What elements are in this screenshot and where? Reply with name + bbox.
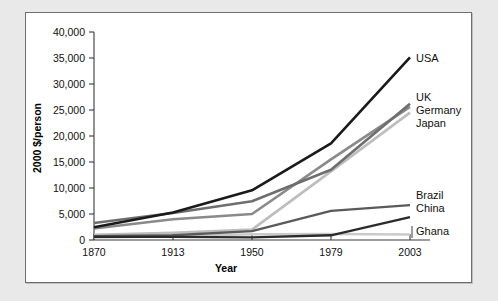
series-label-china: China xyxy=(416,202,446,214)
y-tick-label: 15,000 xyxy=(53,156,85,168)
x-axis-title: Year xyxy=(215,262,237,274)
screenshot-root: 05,00010,00015,00020,00025,00030,00035,0… xyxy=(0,0,498,301)
x-tick-label: 1870 xyxy=(82,246,106,258)
series-line-brazil xyxy=(94,205,410,236)
y-tick-label: 5,000 xyxy=(59,208,85,220)
y-axis: 05,00010,00015,00020,00025,00030,00035,0… xyxy=(53,26,94,246)
x-tick-label: 2003 xyxy=(398,246,422,258)
x-tick-label: 1950 xyxy=(240,246,264,258)
series-label-usa: USA xyxy=(416,52,439,64)
y-tick-label: 0 xyxy=(79,234,85,246)
y-tick-label: 25,000 xyxy=(53,104,85,116)
y-tick-label: 40,000 xyxy=(53,26,85,38)
y-tick-label: 10,000 xyxy=(53,182,85,194)
series-line-germany xyxy=(94,107,410,229)
series-line-uk xyxy=(94,104,410,223)
x-tick-label: 1979 xyxy=(319,246,343,258)
series-label-japan: Japan xyxy=(416,117,446,129)
series-lines xyxy=(94,57,410,237)
y-tick-label: 20,000 xyxy=(53,130,85,142)
figure-frame: 05,00010,00015,00020,00025,00030,00035,0… xyxy=(25,12,472,283)
y-axis-title: 2000 $/person xyxy=(31,103,43,173)
series-label-ghana: Ghana xyxy=(416,225,450,237)
chart-canvas: 05,00010,00015,00020,00025,00030,00035,0… xyxy=(26,13,473,284)
series-labels: USAUKGermanyJapanBrazilChinaGhana xyxy=(412,52,462,238)
y-tick-label: 35,000 xyxy=(53,52,85,64)
series-label-brazil: Brazil xyxy=(416,189,444,201)
series-label-germany: Germany xyxy=(416,104,462,116)
y-tick-label: 30,000 xyxy=(53,78,85,90)
x-tick-label: 1913 xyxy=(161,246,185,258)
series-label-uk: UK xyxy=(416,91,432,103)
line-chart: 05,00010,00015,00020,00025,00030,00035,0… xyxy=(26,13,473,284)
